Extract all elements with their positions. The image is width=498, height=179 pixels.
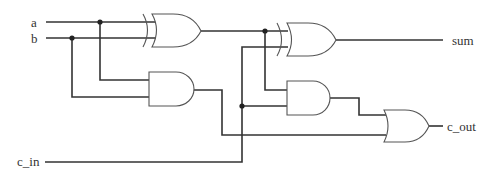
full-adder-diagram: a b c_in sum c_out [0, 0, 498, 179]
or-gate [384, 110, 429, 142]
xor-gate-1 [143, 14, 201, 47]
and-gate-2 [287, 81, 330, 115]
wire-xor1-to-and2 [265, 31, 287, 90]
wire-a-to-and1 [100, 22, 149, 80]
junction-a [97, 19, 102, 24]
output-label-sum: sum [452, 33, 474, 48]
input-label-c-in: c_in [17, 154, 40, 169]
output-label-c-out: c_out [447, 119, 476, 134]
wire-b-to-and1 [72, 38, 149, 97]
xor-gate-2 [277, 23, 336, 56]
and-gate-1 [149, 72, 194, 106]
wire-and2-out [330, 98, 386, 115]
junction-c-in [239, 103, 244, 108]
junction-b [69, 35, 74, 40]
input-label-b: b [31, 31, 38, 46]
input-label-a: a [31, 15, 37, 30]
wires [45, 22, 443, 162]
junction-xor1-out [262, 28, 267, 33]
